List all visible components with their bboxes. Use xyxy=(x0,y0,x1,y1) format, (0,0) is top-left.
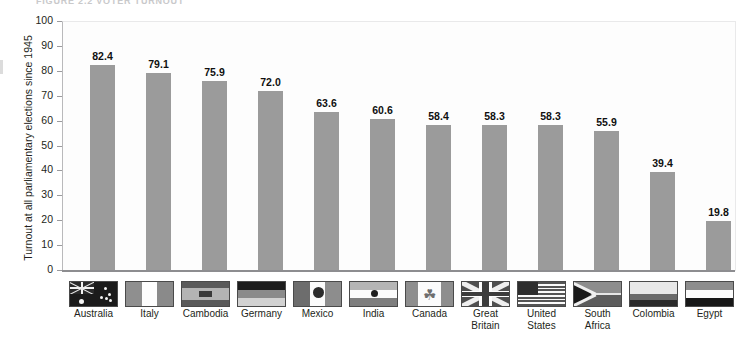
bar-column: 39.4 xyxy=(635,21,690,270)
y-axis-tick-mark xyxy=(57,121,62,122)
y-axis-tick-mark xyxy=(57,96,62,97)
flag-italy-icon xyxy=(125,281,174,307)
bar-value-label: 55.9 xyxy=(579,116,634,128)
bar-column: 58.3 xyxy=(523,21,578,270)
country-legend-cell: Germany xyxy=(234,277,289,341)
country-flag-row: AustraliaItalyCambodiaGermanyMexicoIndia… xyxy=(62,277,734,341)
country-legend-cell: Colombia xyxy=(626,277,681,341)
bar-value-label: 58.4 xyxy=(411,110,466,122)
y-axis-tick-label: 30 xyxy=(41,188,53,200)
bar-column: 58.4 xyxy=(411,21,466,270)
flag-cambodia-icon xyxy=(181,281,230,307)
flag-germany-icon xyxy=(237,281,286,307)
country-legend-cell: Mexico xyxy=(290,277,345,341)
flag-great-britain-icon xyxy=(461,281,510,307)
bar-value-label: 82.4 xyxy=(75,50,130,62)
bar xyxy=(146,73,171,270)
bar xyxy=(538,125,563,270)
y-axis-tick-mark xyxy=(57,170,62,171)
y-axis-tick-label: 10 xyxy=(41,238,53,250)
bar xyxy=(314,112,339,270)
flag-south-africa-icon xyxy=(573,281,622,307)
bar-column: 60.6 xyxy=(355,21,410,270)
flag-india-icon xyxy=(349,281,398,307)
y-axis-title: Turnout at all parliamentary elections s… xyxy=(22,16,34,280)
bar-column: 72.0 xyxy=(243,21,298,270)
figure-caption: FIGURE 2.2 VOTER TURNOUT xyxy=(36,0,266,6)
y-axis-tick-label: 60 xyxy=(41,114,53,126)
country-legend-cell: UnitedStates xyxy=(514,277,569,341)
y-axis-tick-label: 20 xyxy=(41,213,53,225)
country-legend-cell: ☘Canada xyxy=(402,277,457,341)
y-axis-tick-label: 40 xyxy=(41,163,53,175)
bar-value-label: 58.3 xyxy=(467,110,522,122)
country-legend-cell: Australia xyxy=(66,277,121,341)
bar-column: 19.8 xyxy=(691,21,739,270)
bar-value-label: 58.3 xyxy=(523,110,578,122)
y-axis-tick-label: 0 xyxy=(47,263,53,275)
bar xyxy=(482,125,507,270)
bar-column: 75.9 xyxy=(187,21,242,270)
country-legend-cell: Cambodia xyxy=(178,277,233,341)
bar-column: 82.4 xyxy=(75,21,130,270)
y-axis-tick-mark xyxy=(57,220,62,221)
bar xyxy=(650,172,675,270)
flag-united-states-icon xyxy=(517,281,566,307)
bar-value-label: 19.8 xyxy=(691,206,739,218)
y-axis-tick-mark xyxy=(57,71,62,72)
bar xyxy=(594,131,619,270)
y-axis-tick-label: 90 xyxy=(41,39,53,51)
y-axis-tick-mark xyxy=(57,146,62,147)
x-axis-line xyxy=(62,270,735,272)
bar xyxy=(370,119,395,270)
country-legend-cell: SouthAfrica xyxy=(570,277,625,341)
bar-column: 58.3 xyxy=(467,21,522,270)
y-axis-tick-label: 50 xyxy=(41,139,53,151)
country-legend-cell: GreatBritain xyxy=(458,277,513,341)
bar xyxy=(202,81,227,270)
bar-value-label: 63.6 xyxy=(299,97,354,109)
flag-egypt-icon xyxy=(685,281,734,307)
flag-canada-icon: ☘ xyxy=(405,281,454,307)
y-axis-tick-label: 70 xyxy=(41,89,53,101)
bar-value-label: 60.6 xyxy=(355,104,410,116)
bar xyxy=(706,221,731,270)
y-axis-tick-mark xyxy=(57,21,62,22)
flag-colombia-icon xyxy=(629,281,678,307)
y-axis-tick-mark xyxy=(57,270,62,271)
country-legend-cell: India xyxy=(346,277,401,341)
country-legend-cell: Egypt xyxy=(682,277,737,341)
bar-value-label: 39.4 xyxy=(635,157,690,169)
bar xyxy=(426,125,451,270)
bar xyxy=(90,65,115,270)
page-edge-artifact xyxy=(0,60,3,74)
y-axis-tick-mark xyxy=(57,195,62,196)
y-axis-tick-label: 80 xyxy=(41,64,53,76)
bar-column: 55.9 xyxy=(579,21,634,270)
y-axis-tick-mark xyxy=(57,245,62,246)
bar-value-label: 75.9 xyxy=(187,66,242,78)
bar-column: 63.6 xyxy=(299,21,354,270)
y-axis-tick-label: 100 xyxy=(35,14,53,26)
bar-value-label: 72.0 xyxy=(243,76,298,88)
y-axis-tick-mark xyxy=(57,46,62,47)
country-legend-cell: Italy xyxy=(122,277,177,341)
flag-mexico-icon xyxy=(293,281,342,307)
x-axis-category-label: Egypt xyxy=(676,308,739,320)
bar-column: 79.1 xyxy=(131,21,186,270)
bar-value-label: 79.1 xyxy=(131,58,186,70)
bar xyxy=(258,91,283,270)
flag-australia-icon xyxy=(69,281,118,307)
